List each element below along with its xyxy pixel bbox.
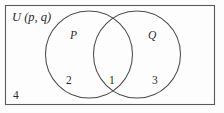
- region-outside-number: 4: [13, 89, 19, 101]
- region-left-only-number: 2: [66, 74, 72, 86]
- region-right-only-number: 3: [152, 74, 158, 86]
- universal-set-label: U (p, q): [12, 10, 51, 24]
- venn-diagram-canvas: U (p, q) P Q 2 1 3 4: [0, 0, 224, 113]
- venn-diagram-figure: U (p, q) P Q 2 1 3 4: [0, 0, 224, 113]
- set-p-label: P: [69, 29, 77, 41]
- set-q-label: Q: [148, 29, 157, 41]
- region-intersection-number: 1: [109, 74, 115, 86]
